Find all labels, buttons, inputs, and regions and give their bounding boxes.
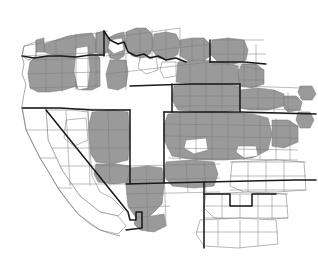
county-shaded-ne-band: [240, 88, 284, 110]
county-shaded-id-central: [106, 60, 128, 90]
county-unshaded-id-gap: [74, 46, 90, 90]
choropleth-map: [0, 0, 318, 274]
county-shaded-wa-ne: [36, 38, 44, 52]
county-shaded-sd-west: [238, 64, 264, 88]
county-shaded-mt-east: [180, 38, 210, 62]
county-unshaded-tx: [196, 218, 278, 248]
map-container: [0, 0, 318, 274]
county-shaded-ut-south: [94, 164, 130, 184]
